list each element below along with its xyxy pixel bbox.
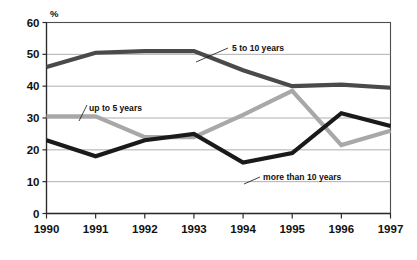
y-tick-label-0: 0 (33, 208, 39, 220)
y-tick-label-10: 10 (27, 176, 40, 188)
y-tick-label-60: 60 (27, 17, 40, 29)
x-tick-label-1994: 1994 (230, 223, 256, 235)
series-annotation-more-than-10-years: more than 10 years (263, 172, 342, 182)
y-tick-label-50: 50 (27, 48, 40, 60)
x-tick-label-1996: 1996 (329, 223, 355, 235)
line-chart: 0102030405060 % 199019911992199319941995… (0, 0, 417, 260)
x-tick-label-1995: 1995 (279, 223, 305, 235)
series-annotation-up-to-5-years: up to 5 years (89, 103, 142, 113)
x-tick-label-1991: 1991 (83, 223, 109, 235)
y-tick-label-40: 40 (27, 80, 40, 92)
series-annotation-5-to-10-years: 5 to 10 years (232, 43, 284, 53)
x-tick-label-1997: 1997 (378, 223, 404, 235)
x-tick-label-1992: 1992 (132, 223, 158, 235)
chart-container: 0102030405060 % 199019911992199319941995… (0, 0, 417, 260)
y-axis-unit-label: % (50, 8, 59, 19)
y-tick-label-20: 20 (27, 144, 40, 156)
x-tick-label-1993: 1993 (181, 223, 207, 235)
y-tick-label-30: 30 (27, 112, 40, 124)
x-tick-label-1990: 1990 (34, 223, 60, 235)
